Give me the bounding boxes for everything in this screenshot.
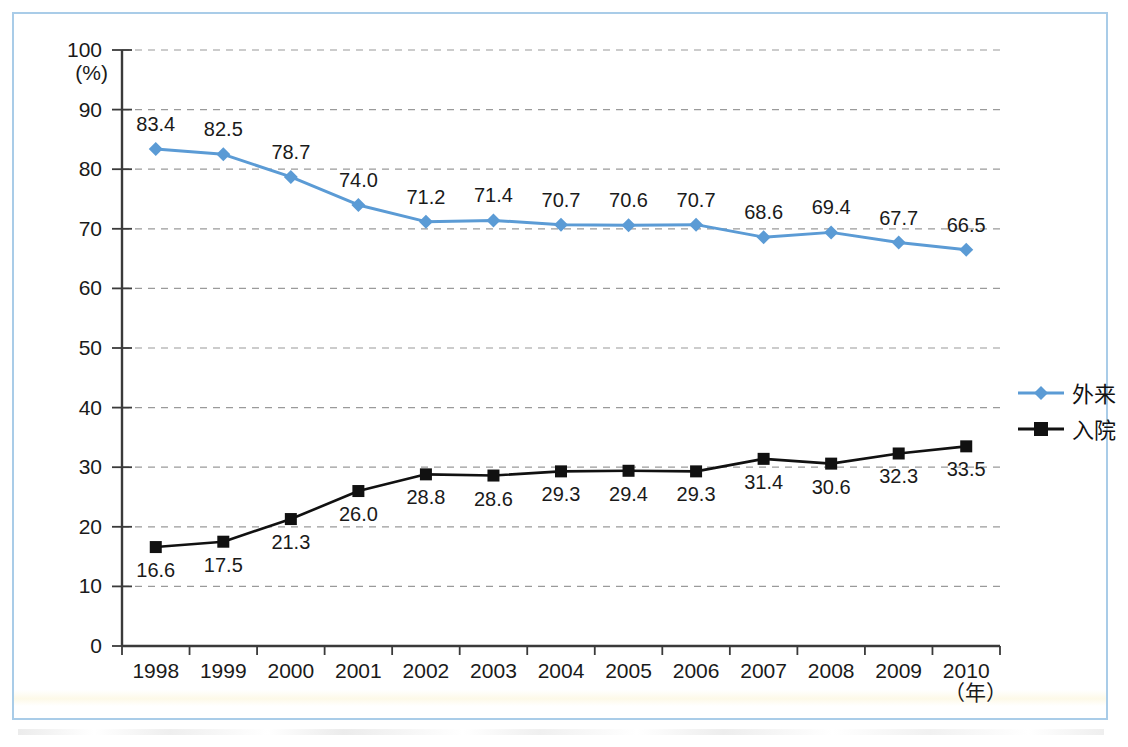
data-point-label: 70.7 xyxy=(677,189,716,211)
x-axis-ticks-group xyxy=(122,646,1000,655)
y-axis-tick-label: 60 xyxy=(79,276,102,299)
chart-page: 0102030405060708090100 19981999200020012… xyxy=(0,0,1128,747)
data-point-label: 21.3 xyxy=(271,531,310,553)
x-axis-labels-group: 1998199920002001200220032004200520062007… xyxy=(132,659,989,682)
data-point-marker xyxy=(554,218,568,232)
data-point-marker xyxy=(150,541,162,553)
x-axis-tick-label: 2007 xyxy=(740,659,787,682)
data-point-label: 83.4 xyxy=(136,113,175,135)
data-point-marker xyxy=(216,147,230,161)
x-axis-tick-label: 2009 xyxy=(875,659,922,682)
y-axis-tick-label: 90 xyxy=(79,98,102,121)
data-point-marker xyxy=(622,218,636,232)
data-point-marker xyxy=(960,440,972,452)
y-axis-tick-label: 10 xyxy=(79,574,102,597)
data-point-marker xyxy=(149,142,163,156)
y-axis-tick-label: 20 xyxy=(79,515,102,538)
x-axis-tick-label: 2005 xyxy=(605,659,652,682)
data-point-marker xyxy=(284,170,298,184)
data-point-label: 71.2 xyxy=(406,186,445,208)
y-axis-tick-label: 70 xyxy=(79,217,102,240)
data-point-label: 31.4 xyxy=(744,471,783,493)
y-axis-tick-label: 80 xyxy=(79,157,102,180)
x-axis-tick-label: 2002 xyxy=(403,659,450,682)
legend-label-inpatient: 入院 xyxy=(1072,418,1116,443)
data-point-marker xyxy=(825,458,837,470)
legend-marker-square-icon xyxy=(1034,422,1048,436)
line-chart: 0102030405060708090100 19981999200020012… xyxy=(0,0,1128,747)
data-point-label: 70.7 xyxy=(542,189,581,211)
data-point-label: 28.8 xyxy=(406,486,445,508)
data-point-label: 29.4 xyxy=(609,483,648,505)
data-point-label: 29.3 xyxy=(677,483,716,505)
y-axis-tick-label: 30 xyxy=(79,455,102,478)
data-point-label: 69.4 xyxy=(812,196,851,218)
data-point-label: 26.0 xyxy=(339,503,378,525)
data-point-label: 28.6 xyxy=(474,488,513,510)
x-axis-tick-label: 2003 xyxy=(470,659,517,682)
data-point-marker xyxy=(893,447,905,459)
data-point-label: 82.5 xyxy=(204,118,243,140)
data-point-label: 71.4 xyxy=(474,184,513,206)
data-point-marker xyxy=(420,468,432,480)
x-axis-unit-label: （年） xyxy=(944,681,1007,704)
data-point-marker xyxy=(555,465,567,477)
x-axis-tick-label: 1998 xyxy=(132,659,179,682)
data-point-marker xyxy=(487,470,499,482)
x-axis-tick-label: 1999 xyxy=(200,659,247,682)
gridlines-group xyxy=(122,50,1000,586)
data-point-marker xyxy=(486,213,500,227)
x-axis-tick-label: 2000 xyxy=(267,659,314,682)
legend-label-outpatient: 外来 xyxy=(1072,382,1116,407)
x-axis-tick-label: 2004 xyxy=(538,659,585,682)
data-point-label: 78.7 xyxy=(271,141,310,163)
x-axis-tick-label: 2008 xyxy=(808,659,855,682)
y-axis-unit-label: (%) xyxy=(75,61,108,84)
data-point-label: 16.6 xyxy=(136,559,175,581)
data-point-label: 66.5 xyxy=(947,214,986,236)
data-point-label: 70.6 xyxy=(609,189,648,211)
data-point-marker xyxy=(892,236,906,250)
x-axis-tick-label: 2006 xyxy=(673,659,720,682)
data-point-marker xyxy=(352,485,364,497)
x-axis-tick-label: 2001 xyxy=(335,659,382,682)
data-point-marker xyxy=(217,536,229,548)
data-point-marker xyxy=(689,218,703,232)
data-point-marker xyxy=(959,243,973,257)
data-point-marker xyxy=(419,215,433,229)
y-axis-tick-label: 0 xyxy=(90,634,102,657)
data-point-marker xyxy=(623,465,635,477)
data-point-label: 67.7 xyxy=(879,207,918,229)
data-point-label: 33.5 xyxy=(947,458,986,480)
legend-marker-diamond-icon xyxy=(1034,386,1048,400)
data-value-labels-group: 83.482.578.774.071.271.470.770.670.768.6… xyxy=(136,113,985,581)
data-point-marker xyxy=(351,198,365,212)
x-axis-tick-label: 2010 xyxy=(943,659,990,682)
data-point-label: 74.0 xyxy=(339,169,378,191)
data-point-label: 30.6 xyxy=(812,476,851,498)
y-axis-tick-label: 100 xyxy=(67,38,102,61)
y-axis-labels-group: 0102030405060708090100 xyxy=(67,38,102,657)
data-point-marker xyxy=(757,230,771,244)
data-point-label: 68.6 xyxy=(744,201,783,223)
data-point-marker xyxy=(285,513,297,525)
data-point-marker xyxy=(690,465,702,477)
y-axis-tick-label: 50 xyxy=(79,336,102,359)
data-point-marker xyxy=(758,453,770,465)
y-axis-tick-label: 40 xyxy=(79,396,102,419)
data-point-marker xyxy=(824,225,838,239)
data-point-label: 29.3 xyxy=(542,483,581,505)
data-point-label: 32.3 xyxy=(879,465,918,487)
chart-legend: 外来入院 xyxy=(1018,382,1116,443)
data-point-label: 17.5 xyxy=(204,554,243,576)
